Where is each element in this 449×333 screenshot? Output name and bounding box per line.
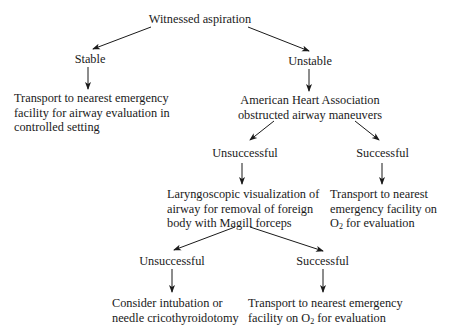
node-text: controlled setting	[14, 120, 170, 135]
node-text: Consider intubation or	[112, 296, 239, 311]
flowchart-arrows	[0, 0, 449, 333]
node-text: Successful	[345, 146, 420, 161]
node-text: facility for airway evaluation in	[14, 106, 170, 121]
node-unstable: Unstable	[280, 54, 340, 69]
node-text: Unstable	[280, 54, 340, 69]
node-intubation: Consider intubation or needle cricothyro…	[112, 296, 239, 325]
arrow-root-to-stable	[93, 27, 151, 49]
node-aha-maneuvers: American Heart Association obstructed ai…	[235, 93, 385, 122]
node-text: obstructed airway maneuvers	[235, 108, 385, 123]
node-magill-unsuccessful: Unsuccessful	[132, 254, 212, 269]
node-text: Unsuccessful	[132, 254, 212, 269]
node-text: Transport to nearest	[330, 187, 437, 202]
node-text: emergency facility on	[330, 202, 437, 217]
node-stable: Stable	[60, 52, 120, 67]
node-aha-unsuccessful: Unsuccessful	[205, 146, 285, 161]
node-aha-success-transport: Transport to nearest emergency facility …	[330, 187, 437, 231]
node-text: Unsuccessful	[205, 146, 285, 161]
arrow-root-to-unstable	[248, 27, 309, 51]
arrow-aha-to-unsuccessful	[250, 121, 274, 140]
node-text: needle cricothyroidotomy	[112, 311, 239, 326]
o2-line: facility on O2 for evaluation	[248, 311, 403, 326]
node-text: airway for removal of foreign	[167, 202, 319, 217]
node-text: Successful	[285, 254, 360, 269]
node-witnessed-aspiration: Witnessed aspiration	[140, 12, 260, 27]
arrow-laryngoscopic-to-successful	[250, 227, 323, 251]
node-text: American Heart Association	[235, 93, 385, 108]
node-stable-transport: Transport to nearest emergency facility …	[14, 91, 170, 135]
node-magill-success-transport: Transport to nearest emergency facility …	[248, 296, 403, 325]
node-text: Stable	[60, 52, 120, 67]
o2-line: O2 for evaluation	[330, 216, 437, 231]
node-text: Laryngoscopic visualization of	[167, 187, 319, 202]
node-aha-successful: Successful	[345, 146, 420, 161]
node-text: body with Magill forceps	[167, 216, 319, 231]
node-magill-successful: Successful	[285, 254, 360, 269]
node-laryngoscopic: Laryngoscopic visualization of airway fo…	[167, 187, 319, 231]
node-text: Transport to nearest emergency	[14, 91, 170, 106]
node-text: Transport to nearest emergency	[248, 296, 403, 311]
arrow-aha-to-successful	[355, 121, 379, 140]
node-text: Witnessed aspiration	[140, 12, 260, 27]
